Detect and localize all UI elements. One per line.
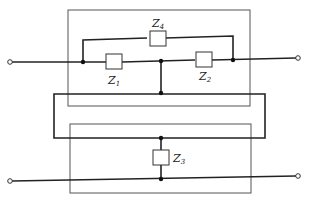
circuit-diagram: Z1 Z2 Z4 Z3 — [0, 0, 320, 202]
terminal-top-right — [296, 56, 301, 61]
label-z3: Z3 — [172, 152, 186, 166]
label-z4: Z4 — [151, 17, 164, 31]
impedance-z2-box — [196, 52, 212, 67]
label-z1: Z1 — [107, 74, 120, 88]
impedance-z3-box — [153, 150, 169, 165]
terminal-bottom-left — [8, 179, 13, 184]
impedance-z1-box — [106, 54, 122, 69]
connecting-loop — [54, 94, 265, 138]
label-z2: Z2 — [198, 70, 212, 84]
impedance-z4-box — [150, 31, 166, 46]
terminal-bottom-right — [296, 174, 301, 179]
terminal-top-left — [8, 60, 13, 65]
